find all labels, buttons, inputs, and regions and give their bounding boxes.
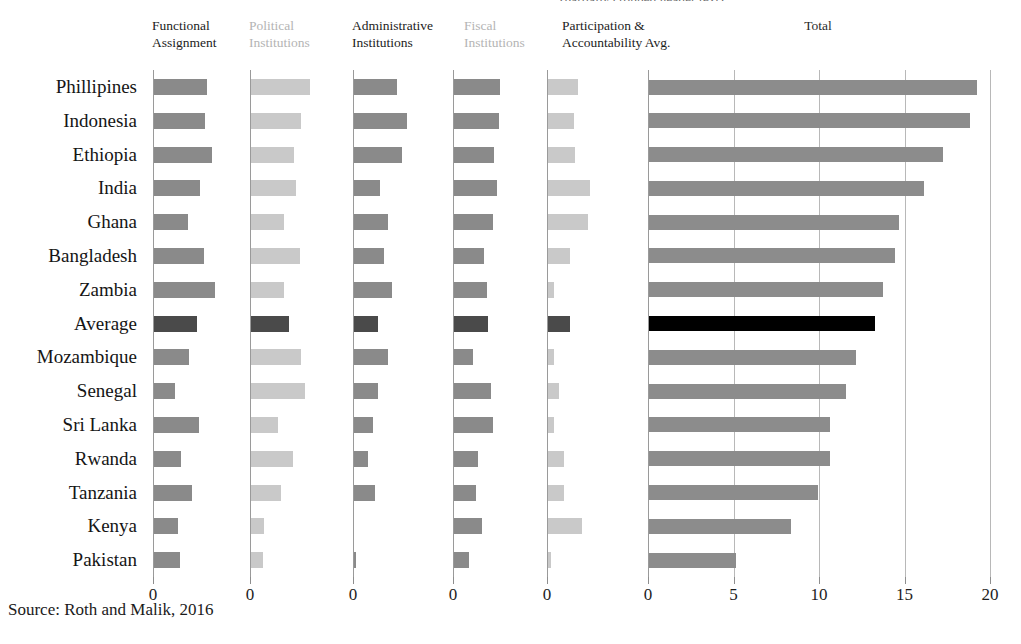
bar[interactable] [354, 282, 392, 298]
bar[interactable] [649, 451, 830, 466]
bar[interactable] [548, 552, 551, 568]
x-axis-tick-label: 5 [714, 585, 754, 605]
bar[interactable] [649, 248, 895, 263]
bar[interactable] [454, 417, 493, 433]
bar[interactable] [454, 248, 484, 264]
y-axis-label: Senegal [0, 374, 146, 408]
bar[interactable] [251, 485, 281, 501]
bar[interactable] [154, 451, 181, 467]
bar[interactable] [649, 553, 736, 568]
bar[interactable] [154, 79, 207, 95]
bar[interactable] [548, 451, 564, 467]
bar[interactable] [454, 147, 494, 163]
bar[interactable] [454, 552, 469, 568]
bar[interactable] [548, 214, 588, 230]
bar[interactable] [548, 383, 559, 399]
bar[interactable] [548, 282, 554, 298]
bar[interactable] [251, 316, 289, 332]
bar[interactable] [649, 215, 899, 230]
bar[interactable] [454, 214, 493, 230]
bar[interactable] [649, 316, 875, 331]
bar[interactable] [454, 518, 482, 534]
bar[interactable] [154, 383, 175, 399]
bar[interactable] [454, 349, 473, 365]
bar[interactable] [251, 349, 301, 365]
bar[interactable] [548, 248, 570, 264]
bar[interactable] [354, 552, 356, 568]
bar[interactable] [154, 248, 204, 264]
bar[interactable] [649, 80, 977, 95]
panel-header-administrative-institutions: Administrative Institutions [352, 18, 464, 51]
bar[interactable] [354, 248, 384, 264]
bar[interactable] [154, 282, 215, 298]
bar[interactable] [548, 113, 574, 129]
table-row [153, 543, 249, 577]
bar[interactable] [548, 147, 575, 163]
bar[interactable] [649, 350, 856, 365]
bar[interactable] [649, 417, 830, 432]
bar[interactable] [251, 180, 296, 196]
bar[interactable] [154, 417, 199, 433]
table-row [453, 442, 543, 476]
table-row [153, 442, 249, 476]
bar[interactable] [649, 519, 791, 534]
bar[interactable] [454, 485, 476, 501]
bar[interactable] [454, 451, 478, 467]
bar[interactable] [154, 113, 205, 129]
bar[interactable] [354, 214, 388, 230]
bar[interactable] [354, 147, 402, 163]
bar[interactable] [548, 316, 570, 332]
bar[interactable] [649, 113, 970, 128]
bar[interactable] [649, 147, 943, 162]
bar[interactable] [548, 417, 554, 433]
bar[interactable] [251, 147, 294, 163]
bar[interactable] [251, 417, 278, 433]
bar[interactable] [154, 180, 200, 196]
bar[interactable] [548, 518, 582, 534]
bar[interactable] [548, 180, 590, 196]
bar[interactable] [251, 282, 284, 298]
bar[interactable] [354, 349, 388, 365]
bar[interactable] [649, 384, 846, 399]
bar[interactable] [649, 181, 924, 196]
x-axis-tick-label: 0 [527, 585, 567, 605]
table-row [153, 307, 249, 341]
bar[interactable] [454, 282, 487, 298]
bar[interactable] [548, 79, 578, 95]
bar[interactable] [354, 417, 373, 433]
bar[interactable] [251, 113, 301, 129]
bar[interactable] [251, 79, 310, 95]
bar[interactable] [251, 518, 264, 534]
bar[interactable] [649, 485, 818, 500]
bar[interactable] [251, 214, 284, 230]
bar[interactable] [454, 316, 488, 332]
bar[interactable] [154, 552, 180, 568]
bar[interactable] [354, 451, 368, 467]
bar[interactable] [354, 79, 397, 95]
table-row [153, 205, 249, 239]
bar[interactable] [154, 316, 197, 332]
bar[interactable] [454, 79, 500, 95]
bar[interactable] [454, 113, 499, 129]
bar[interactable] [354, 383, 378, 399]
bar[interactable] [354, 113, 407, 129]
bar[interactable] [354, 180, 380, 196]
bar[interactable] [154, 147, 212, 163]
bar[interactable] [354, 316, 378, 332]
bar[interactable] [548, 485, 564, 501]
bar[interactable] [154, 214, 188, 230]
bar[interactable] [454, 180, 497, 196]
table-row [547, 408, 643, 442]
bar[interactable] [354, 485, 375, 501]
bar[interactable] [251, 383, 305, 399]
bar[interactable] [154, 349, 189, 365]
bar[interactable] [548, 349, 554, 365]
bar[interactable] [251, 451, 293, 467]
bar[interactable] [251, 248, 300, 264]
table-row [648, 509, 998, 543]
bar[interactable] [454, 383, 491, 399]
bar[interactable] [649, 282, 883, 297]
bar[interactable] [154, 485, 192, 501]
bar[interactable] [154, 518, 178, 534]
bar[interactable] [251, 552, 263, 568]
